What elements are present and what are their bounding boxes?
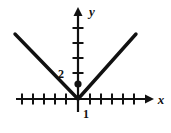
y-tick-label-2: 2	[58, 67, 64, 81]
graph-left-branch	[15, 34, 78, 99]
x-axis-label: x	[157, 92, 165, 107]
y-axis-label: y	[87, 4, 95, 19]
coordinate-plane-graphic: 2 1 x y	[0, 0, 171, 133]
graph-right-branch	[78, 34, 136, 99]
y-axis-arrowhead	[74, 7, 83, 16]
x-tick-label-1: 1	[83, 107, 89, 121]
graph-figure: 2 1 x y	[0, 0, 171, 133]
x-axis-arrowhead	[145, 95, 154, 104]
filled-point-marker	[74, 80, 81, 87]
